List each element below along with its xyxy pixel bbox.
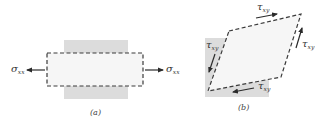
right-shear-label: τxy xyxy=(302,39,314,50)
panel-b xyxy=(205,14,302,97)
panel-a xyxy=(27,40,163,99)
sigma-symbol: σ xyxy=(166,63,173,74)
deformed-element-b xyxy=(208,14,301,91)
subscript: xy xyxy=(264,85,271,92)
sigma-symbol: σ xyxy=(11,63,18,74)
subscript: xy xyxy=(308,43,315,50)
left-shear-label: τxy xyxy=(206,40,218,51)
subscript: xy xyxy=(212,44,219,51)
top-shear-label: τxy xyxy=(257,2,269,13)
caption-b: (b) xyxy=(238,104,249,112)
subscript: xx xyxy=(18,68,25,75)
subscript: xy xyxy=(263,6,270,13)
caption-a: (a) xyxy=(90,109,101,117)
top-shear-arrow xyxy=(256,14,277,18)
subscript: xx xyxy=(173,68,180,75)
right-stress-label: σxx xyxy=(166,64,180,75)
bottom-shear-label: τxy xyxy=(258,81,270,92)
stress-diagram xyxy=(0,0,319,126)
left-stress-label: σxx xyxy=(11,64,25,75)
deformed-element-a xyxy=(47,53,143,86)
